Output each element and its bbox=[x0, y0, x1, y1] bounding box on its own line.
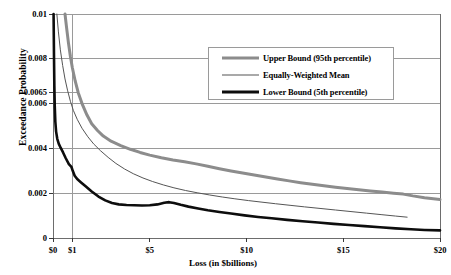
y-tick-label: 0.01 bbox=[32, 9, 47, 19]
y-tick-label: 0.006 bbox=[28, 98, 47, 108]
legend-swatch-upper-bound-icon bbox=[222, 53, 259, 63]
legend-label-upper-bound: Upper Bound (95th percentile) bbox=[263, 53, 371, 63]
legend-item-upper-bound: Upper Bound (95th percentile) bbox=[209, 49, 395, 66]
y-tick-label: 0.008 bbox=[28, 53, 47, 63]
legend-swatch-lower-bound-icon bbox=[222, 87, 259, 97]
legend-label-mean: Equally-Weighted Mean bbox=[263, 70, 349, 80]
x-tick-label: $1 bbox=[52, 245, 92, 255]
y-tick-label: 0 bbox=[43, 233, 47, 243]
x-tick-label: $20 bbox=[420, 245, 451, 255]
legend-item-mean: Equally-Weighted Mean bbox=[209, 66, 395, 83]
y-tick-label: 0.004 bbox=[28, 143, 47, 153]
chart-legend: Upper Bound (95th percentile) Equally-We… bbox=[208, 47, 394, 100]
y-axis-label: Exceedance Probability bbox=[18, 27, 28, 167]
legend-item-lower-bound: Lower Bound (5th percentile) bbox=[209, 83, 395, 100]
x-axis-label: Loss (in $billions) bbox=[0, 258, 446, 268]
x-tick-label: $15 bbox=[323, 245, 363, 255]
y-tick-label: 0.0065 bbox=[24, 87, 47, 97]
legend-label-lower-bound: Lower Bound (5th percentile) bbox=[263, 87, 367, 97]
x-tick-label: $5 bbox=[130, 245, 170, 255]
x-tick-label: $10 bbox=[227, 245, 267, 255]
legend-swatch-mean-icon bbox=[222, 70, 259, 80]
y-tick-label: 0.002 bbox=[28, 188, 47, 198]
